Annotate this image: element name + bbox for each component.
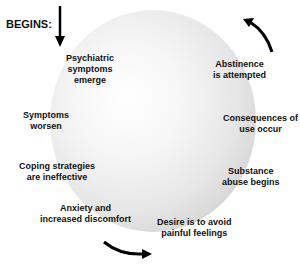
cycle-diagram: BEGINS: Psychiatric symptoms emerge Abst… bbox=[0, 0, 300, 265]
cycle-arrow-bottom-icon bbox=[104, 242, 152, 259]
step-line: Symptoms bbox=[23, 110, 69, 121]
step-line: painful feelings bbox=[157, 228, 232, 239]
step-line: is attempted bbox=[213, 70, 266, 81]
step-symptoms-worsen: Symptoms worsen bbox=[23, 110, 69, 132]
step-line: increased discomfort bbox=[40, 214, 131, 225]
step-line: worsen bbox=[23, 121, 69, 132]
step-anxiety: Anxiety and increased discomfort bbox=[40, 203, 131, 225]
start-arrow-icon bbox=[55, 6, 65, 47]
step-line: Coping strategies bbox=[19, 161, 95, 172]
step-coping: Coping strategies are ineffective bbox=[19, 161, 95, 183]
step-line: Substance bbox=[222, 166, 280, 177]
step-line: emerge bbox=[66, 75, 114, 86]
step-line: use occur bbox=[223, 124, 298, 135]
step-line: Anxiety and bbox=[40, 203, 131, 214]
step-line: abuse begins bbox=[222, 177, 280, 188]
step-substance-abuse: Substance abuse begins bbox=[222, 166, 280, 188]
cycle-arrow-top-right-icon bbox=[243, 18, 272, 52]
step-line: Psychiatric bbox=[66, 53, 114, 64]
step-line: are ineffective bbox=[19, 172, 95, 183]
step-line: Abstinence bbox=[213, 59, 266, 70]
step-line: symptoms bbox=[66, 64, 114, 75]
step-psychiatric-symptoms: Psychiatric symptoms emerge bbox=[66, 53, 114, 86]
step-line: Desire is to avoid bbox=[157, 217, 232, 228]
step-desire: Desire is to avoid painful feelings bbox=[157, 217, 232, 239]
step-consequences: Consequences of use occur bbox=[223, 113, 298, 135]
step-abstinence: Abstinence is attempted bbox=[213, 59, 266, 81]
step-line: Consequences of bbox=[223, 113, 298, 124]
